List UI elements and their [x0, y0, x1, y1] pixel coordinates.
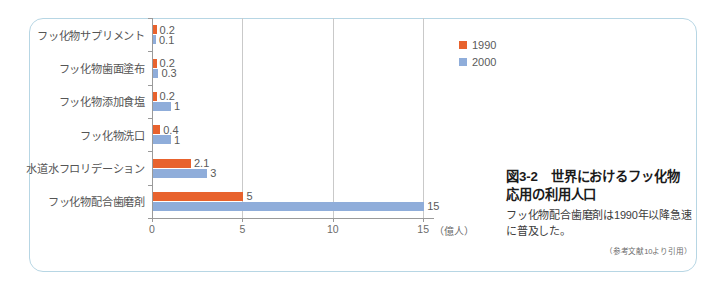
- gridline: [333, 18, 334, 218]
- category-label: フッ化物添加食塩: [59, 93, 145, 109]
- figure-page: 051015（億人）フッ化物サプリメント0.20.1フッ化物歯面塗布0.20.3…: [0, 0, 722, 291]
- plot-area: 051015（億人）フッ化物サプリメント0.20.1フッ化物歯面塗布0.20.3…: [152, 18, 434, 218]
- y-axis-tick: [148, 85, 152, 86]
- chart-legend: 1990 2000: [459, 36, 549, 70]
- figure-text-panel: 図3-2 世界におけるフッ化物応用の利用人口 フッ化物配合歯磨剤は1990年以降…: [506, 168, 692, 256]
- bar-value-label: 0.2: [160, 90, 175, 102]
- bar-1990: [153, 92, 157, 101]
- bar-value-label: 2.1: [194, 157, 209, 169]
- category-label: フッ化物洗口: [80, 127, 145, 143]
- legend-item-1990: 1990: [459, 36, 549, 53]
- bar-2000: [153, 69, 158, 78]
- bar-value-label: 5: [246, 190, 252, 202]
- bar-2000: [153, 169, 207, 178]
- bar-value-label: 15: [427, 200, 439, 212]
- legend-item-2000: 2000: [459, 53, 549, 70]
- x-axis-tick: [242, 218, 243, 222]
- x-axis-tick-label: 15: [417, 223, 429, 235]
- figure-source-note: （参考文献10より引用）: [506, 245, 692, 256]
- y-axis-line: [152, 18, 153, 218]
- y-axis-tick: [148, 185, 152, 186]
- category-label: フッ化物配合歯磨剤: [48, 193, 145, 209]
- x-axis-tick: [333, 218, 334, 222]
- bar-1990: [153, 125, 160, 134]
- legend-swatch-icon-1990: [459, 41, 467, 49]
- category-label: 水道水フロリデーション: [26, 160, 145, 176]
- bar-1990: [153, 59, 157, 68]
- category-label: フッ化物サプリメント: [37, 27, 145, 43]
- figure-caption: フッ化物配合歯磨剤は1990年以降急速に普及した。: [506, 208, 692, 239]
- figure-title: 図3-2 世界におけるフッ化物応用の利用人口: [506, 168, 692, 203]
- x-axis-tick: [152, 218, 153, 222]
- bar-1990: [153, 192, 243, 201]
- x-axis-line: [152, 218, 434, 219]
- category-label: フッ化物歯面塗布: [59, 60, 145, 76]
- bar-value-label: 0.3: [161, 67, 176, 79]
- bar-value-label: 1: [174, 100, 180, 112]
- y-axis-tick: [148, 118, 152, 119]
- y-axis-tick: [148, 151, 152, 152]
- bar-value-label: 3: [210, 167, 216, 179]
- gridline: [423, 18, 424, 218]
- legend-swatch-icon-2000: [459, 58, 467, 66]
- x-axis-tick-label: 0: [149, 223, 155, 235]
- x-axis-unit-label: （億人）: [434, 223, 474, 238]
- bar-1990: [153, 159, 191, 168]
- bar-2000: [153, 202, 424, 211]
- bar-value-label: 0.1: [159, 34, 174, 46]
- gridline: [242, 18, 243, 218]
- y-axis-tick: [148, 18, 152, 19]
- bar-value-label: 1: [174, 134, 180, 146]
- y-axis-tick: [148, 218, 152, 219]
- bar-chart: 051015（億人）フッ化物サプリメント0.20.1フッ化物歯面塗布0.20.3…: [0, 0, 480, 254]
- bar-2000: [153, 35, 156, 44]
- bar-1990: [153, 25, 157, 34]
- legend-label-1990: 1990: [472, 39, 496, 51]
- legend-label-2000: 2000: [472, 56, 496, 68]
- x-axis-tick-label: 10: [327, 223, 339, 235]
- bar-2000: [153, 102, 171, 111]
- y-axis-tick: [148, 51, 152, 52]
- bar-2000: [153, 135, 171, 144]
- x-axis-tick-label: 5: [239, 223, 245, 235]
- x-axis-tick: [423, 218, 424, 222]
